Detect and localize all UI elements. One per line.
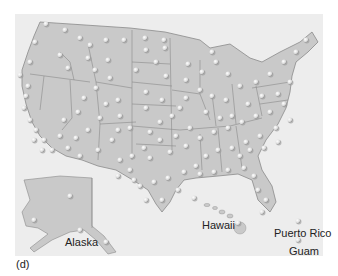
station-dot bbox=[58, 53, 63, 58]
station-dot bbox=[154, 60, 159, 65]
station-dot bbox=[294, 50, 299, 55]
station-dot bbox=[214, 60, 219, 65]
station-dot bbox=[166, 176, 171, 181]
station-dot bbox=[78, 228, 83, 233]
station-dot bbox=[144, 198, 149, 203]
station-dot bbox=[210, 94, 215, 99]
station-dot bbox=[178, 106, 183, 111]
station-dot bbox=[33, 40, 38, 45]
station-dot bbox=[98, 116, 103, 121]
station-dot bbox=[66, 66, 71, 71]
station-dot bbox=[104, 38, 109, 43]
station-dot bbox=[164, 74, 169, 79]
station-dot bbox=[42, 138, 47, 143]
station-dot bbox=[143, 36, 148, 41]
station-dot bbox=[22, 106, 27, 111]
station-dot bbox=[204, 154, 209, 159]
station-dot bbox=[254, 114, 259, 119]
station-dot bbox=[50, 148, 55, 153]
station-dot bbox=[116, 98, 121, 103]
station-dot bbox=[276, 92, 281, 97]
station-dot bbox=[34, 128, 39, 133]
station-dot bbox=[216, 148, 221, 153]
station-dot bbox=[218, 116, 223, 121]
station-dot bbox=[93, 68, 98, 73]
station-dot bbox=[104, 102, 109, 107]
station-dot bbox=[258, 134, 263, 139]
station-dot bbox=[254, 80, 259, 85]
station-dot bbox=[116, 174, 121, 179]
station-dot bbox=[226, 126, 231, 131]
station-dot bbox=[162, 38, 167, 43]
station-dot bbox=[198, 136, 203, 141]
station-dot bbox=[288, 118, 293, 123]
station-dot bbox=[198, 88, 203, 93]
puerto-rico-label: Puerto Rico bbox=[274, 227, 331, 239]
station-dot bbox=[170, 114, 175, 119]
station-dot bbox=[184, 96, 189, 101]
station-dot bbox=[200, 70, 205, 75]
station-dot bbox=[184, 78, 189, 83]
station-dot bbox=[138, 184, 143, 189]
station-dot bbox=[274, 126, 279, 131]
station-dot bbox=[86, 128, 91, 133]
station-dot bbox=[226, 168, 231, 173]
station-dot bbox=[158, 120, 163, 125]
station-dot bbox=[66, 146, 71, 151]
station-dot bbox=[248, 148, 253, 153]
station-dot bbox=[58, 134, 63, 139]
station-dot bbox=[104, 240, 109, 245]
station-dot bbox=[118, 114, 123, 119]
station-dot bbox=[246, 102, 251, 107]
station-dot bbox=[24, 94, 29, 99]
station-dot bbox=[63, 28, 68, 33]
station-dot bbox=[304, 38, 309, 43]
station-dot bbox=[106, 58, 111, 63]
station-dot bbox=[82, 96, 87, 101]
station-dot bbox=[110, 138, 115, 143]
station-dot bbox=[282, 60, 287, 65]
panel-label: (d) bbox=[16, 258, 29, 270]
station-dot bbox=[296, 219, 301, 224]
station-dot bbox=[288, 80, 293, 85]
station-dot bbox=[152, 180, 157, 185]
station-dot bbox=[168, 150, 173, 155]
station-dot bbox=[238, 84, 243, 89]
station-dot bbox=[224, 98, 229, 103]
station-dot bbox=[230, 114, 235, 119]
station-dot bbox=[28, 118, 33, 123]
station-dot bbox=[118, 158, 123, 163]
station-dot bbox=[144, 48, 149, 53]
station-dot bbox=[276, 140, 281, 145]
station-dot bbox=[144, 106, 149, 111]
station-dot bbox=[26, 84, 31, 89]
station-dot bbox=[264, 198, 269, 203]
station-dot bbox=[244, 140, 249, 145]
station-dot bbox=[62, 118, 67, 123]
station-dot bbox=[212, 170, 217, 175]
station-dot bbox=[174, 134, 179, 139]
station-dot bbox=[116, 128, 121, 133]
station-dot bbox=[198, 172, 203, 177]
station-dot bbox=[230, 146, 235, 151]
station-dot bbox=[78, 36, 83, 41]
station-dot bbox=[252, 174, 257, 179]
station-dot bbox=[32, 138, 37, 143]
station-dot bbox=[188, 126, 193, 131]
station-dot bbox=[76, 110, 81, 115]
station-dot bbox=[144, 90, 149, 95]
station-dot bbox=[96, 148, 101, 153]
station-dot bbox=[122, 38, 127, 43]
station-dot bbox=[40, 148, 45, 153]
station-dot bbox=[260, 94, 265, 99]
map-panel: Alaska Hawaii Puerto Rico Guam bbox=[15, 14, 323, 256]
station-dot bbox=[88, 43, 93, 48]
station-dot bbox=[68, 194, 73, 199]
station-dot bbox=[260, 210, 265, 215]
station-dot bbox=[204, 110, 209, 115]
station-dot bbox=[212, 130, 217, 135]
station-dot bbox=[236, 221, 241, 226]
station-dot bbox=[32, 218, 37, 223]
station-dot bbox=[148, 130, 153, 135]
station-dot bbox=[182, 170, 187, 175]
